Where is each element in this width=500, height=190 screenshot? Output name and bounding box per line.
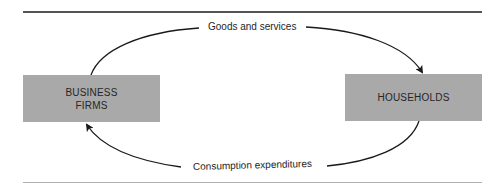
bottom-rule [23,182,482,183]
business-firms-box: BUSINESS FIRMS [23,75,160,122]
goods-flow-arrow-left [91,28,199,75]
consumption-flow-arrow-left [87,125,181,167]
goods-flow-arrow-right [306,27,422,72]
business-firms-label: BUSINESS FIRMS [65,86,117,112]
households-box: HOUSEHOLDS [345,74,482,121]
goods-and-services-label: Goods and services [208,21,296,32]
consumption-flow-arrow-right [327,121,419,166]
households-label: HOUSEHOLDS [377,91,449,104]
